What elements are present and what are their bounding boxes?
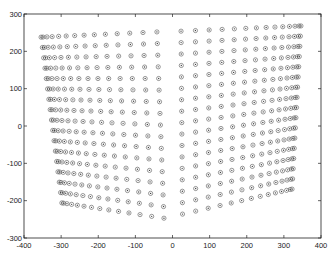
data-point-dot: [297, 46, 298, 47]
data-point-dot: [162, 194, 163, 195]
data-point-dot: [62, 192, 63, 193]
data-point-dot: [181, 133, 182, 134]
data-point-dot: [195, 41, 196, 42]
data-point-dot: [78, 78, 79, 79]
data-point-dot: [92, 132, 93, 133]
data-point-dot: [282, 36, 283, 37]
data-point-dot: [110, 100, 111, 101]
y-tick-label: 300: [9, 10, 22, 19]
data-point-dot: [49, 57, 50, 58]
data-point-dot: [287, 159, 288, 160]
data-point-dot: [260, 185, 261, 186]
data-point-dot: [195, 177, 196, 178]
data-point-dot: [136, 157, 137, 158]
data-point-dot: [115, 177, 116, 178]
data-point-dot: [51, 36, 52, 37]
data-point-dot: [181, 168, 182, 169]
data-point-dot: [268, 194, 269, 195]
data-point-dot: [195, 199, 196, 200]
data-point-dot: [83, 132, 84, 133]
data-point-dot: [90, 196, 91, 197]
y-tick-label: 0: [18, 122, 22, 131]
data-point-dot: [195, 30, 196, 31]
data-point-dot: [294, 107, 295, 108]
data-point-dot: [282, 160, 283, 161]
data-point-dot: [221, 51, 222, 52]
data-point-dot: [208, 141, 209, 142]
y-tick-label: -300: [7, 234, 22, 243]
data-point-dot: [292, 138, 293, 139]
data-point-dot: [96, 67, 97, 68]
data-point-dot: [81, 110, 82, 111]
data-point-dot: [232, 148, 233, 149]
data-point-dot: [281, 191, 282, 192]
data-point-dot: [195, 210, 196, 211]
data-point-dot: [73, 110, 74, 111]
data-point-dot: [287, 57, 288, 58]
data-point-dot: [118, 211, 119, 212]
data-point-dot: [133, 100, 134, 101]
data-point-dot: [82, 121, 83, 122]
data-point-dot: [106, 187, 107, 188]
data-point-dot: [71, 204, 72, 205]
data-point-dot: [255, 48, 256, 49]
data-point-dot: [62, 130, 63, 131]
data-point-dot: [90, 110, 91, 111]
data-point-dot: [195, 75, 196, 76]
data-point-dot: [271, 110, 272, 111]
data-point-dot: [286, 179, 287, 180]
data-point-dot: [78, 152, 79, 153]
data-point-dot: [108, 78, 109, 79]
data-point-dot: [289, 128, 290, 129]
data-point-dot: [147, 124, 148, 125]
data-point-dot: [233, 50, 234, 51]
data-point-dot: [108, 209, 109, 210]
data-point-dot: [82, 195, 83, 196]
data-point-dot: [295, 87, 296, 88]
data-point-dot: [280, 78, 281, 79]
data-point-dot: [253, 134, 254, 135]
data-point-dot: [134, 112, 135, 113]
data-point-dot: [195, 98, 196, 99]
data-point-dot: [182, 213, 183, 214]
scatter-chart: -400-300-200-1000100200300400 3002001000…: [0, 0, 333, 254]
data-point-dot: [182, 191, 183, 192]
data-point-dot: [232, 93, 233, 94]
data-point-dot: [232, 104, 233, 105]
data-point-dot: [161, 159, 162, 160]
data-point-dot: [72, 99, 73, 100]
data-point-dot: [109, 89, 110, 90]
data-point-dot: [68, 57, 69, 58]
data-point-dot: [119, 78, 120, 79]
data-point-dot: [70, 193, 71, 194]
data-point-dot: [221, 73, 222, 74]
data-point-dot: [54, 99, 55, 100]
data-point-dot: [44, 47, 45, 48]
data-point-dot: [74, 183, 75, 184]
data-point-dot: [60, 182, 61, 183]
data-point-dot: [76, 56, 77, 57]
data-point-dot: [288, 149, 289, 150]
data-point-dot: [146, 101, 147, 102]
data-point-dot: [245, 49, 246, 50]
data-point-dot: [132, 78, 133, 79]
data-point-dot: [263, 90, 264, 91]
data-point-dot: [148, 147, 149, 148]
data-point-dot: [241, 189, 242, 190]
data-point-dot: [61, 67, 62, 68]
data-point-dot: [130, 55, 131, 56]
data-point-dot: [195, 188, 196, 189]
data-point-dot: [148, 158, 149, 159]
data-point-dot: [66, 110, 67, 111]
data-point-dot: [294, 26, 295, 27]
data-point-dot: [265, 48, 266, 49]
data-point-dot: [61, 161, 62, 162]
data-point-dot: [292, 67, 293, 68]
data-point-dot: [73, 173, 74, 174]
data-point-dot: [208, 85, 209, 86]
data-point-dot: [281, 47, 282, 48]
data-point-dot: [65, 35, 66, 36]
data-point-dot: [277, 140, 278, 141]
data-point-dot: [87, 78, 88, 79]
data-point-dot: [112, 133, 113, 134]
